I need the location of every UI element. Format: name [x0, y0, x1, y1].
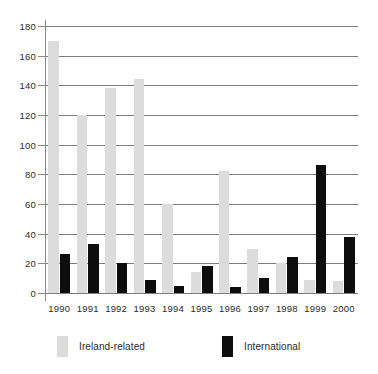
- bar-international-2000: [344, 237, 355, 293]
- x-tick-label-1990: 1990: [43, 303, 75, 314]
- bar-chart: 1990199119921993199419951996199719981999…: [0, 0, 378, 374]
- y-tick-label-120: 120: [6, 111, 36, 121]
- gridline-40: [45, 234, 358, 235]
- x-tick-label-1998: 1998: [271, 303, 303, 314]
- y-tick-label-60: 60: [6, 200, 36, 210]
- bar-international-1995: [202, 266, 213, 293]
- x-tick-label-1996: 1996: [214, 303, 246, 314]
- bar-international-1993: [145, 280, 156, 293]
- x-tick-label-1994: 1994: [157, 303, 189, 314]
- y-tick-160: [38, 56, 46, 57]
- legend-item-international: International: [222, 336, 300, 357]
- bar-ireland-related-1997: [247, 249, 258, 294]
- gridline-60: [45, 204, 358, 205]
- gridline-100: [45, 145, 358, 146]
- y-tick-label-0: 0: [6, 289, 36, 299]
- y-tick-label-40: 40: [6, 230, 36, 240]
- bar-international-1991: [88, 244, 99, 293]
- y-tick-20: [38, 263, 46, 264]
- plot-area: [45, 26, 358, 293]
- legend-swatch-ireland-related: [57, 336, 68, 357]
- bar-ireland-related-1992: [105, 88, 116, 293]
- chart-legend: Ireland-related International: [0, 336, 378, 366]
- bar-international-1996: [230, 287, 241, 293]
- gridline-80: [45, 174, 358, 175]
- bar-international-1999: [316, 165, 327, 293]
- y-tick-label-180: 180: [6, 22, 36, 32]
- bar-ireland-related-1991: [77, 115, 88, 293]
- bar-ireland-related-1993: [134, 79, 145, 293]
- bar-international-1992: [117, 263, 128, 293]
- y-tick-140: [38, 85, 46, 86]
- x-axis-labels: 1990199119921993199419951996199719981999…: [45, 303, 358, 319]
- gridline-120: [45, 115, 358, 116]
- gridline-140: [45, 85, 358, 86]
- x-tick-label-1991: 1991: [72, 303, 104, 314]
- bar-international-1990: [60, 254, 71, 293]
- legend-label-ireland-related: Ireland-related: [79, 341, 145, 352]
- y-tick-80: [38, 174, 46, 175]
- bar-ireland-related-1998: [276, 263, 287, 293]
- bar-ireland-related-2000: [333, 281, 344, 293]
- legend-swatch-international: [222, 336, 233, 357]
- y-tick-40: [38, 234, 46, 235]
- y-tick-180: [38, 26, 46, 27]
- y-tick-label-20: 20: [6, 259, 36, 269]
- y-tick-120: [38, 115, 46, 116]
- gridline-0: [45, 293, 358, 294]
- x-tick-label-2000: 2000: [328, 303, 360, 314]
- y-tick-label-80: 80: [6, 170, 36, 180]
- x-tick-label-1993: 1993: [129, 303, 161, 314]
- bar-ireland-related-1990: [48, 41, 59, 293]
- x-tick-label-1995: 1995: [186, 303, 218, 314]
- gridline-180: [45, 26, 358, 27]
- y-tick-60: [38, 204, 46, 205]
- gridline-160: [45, 56, 358, 57]
- y-tick-label-140: 140: [6, 81, 36, 91]
- legend-label-international: International: [244, 341, 300, 352]
- bar-international-1998: [287, 257, 298, 293]
- bar-ireland-related-1995: [191, 272, 202, 293]
- x-tick-label-1997: 1997: [242, 303, 274, 314]
- bar-ireland-related-1996: [219, 171, 230, 293]
- bar-ireland-related-1999: [304, 280, 315, 293]
- y-tick-100: [38, 145, 46, 146]
- x-tick-label-1992: 1992: [100, 303, 132, 314]
- x-tick-label-1999: 1999: [299, 303, 331, 314]
- y-tick-0: [38, 293, 46, 294]
- bar-international-1994: [174, 286, 185, 293]
- legend-item-ireland-related: Ireland-related: [57, 336, 145, 357]
- bar-ireland-related-1994: [162, 204, 173, 293]
- bar-international-1997: [259, 278, 270, 293]
- y-tick-label-100: 100: [6, 141, 36, 151]
- y-tick-label-160: 160: [6, 52, 36, 62]
